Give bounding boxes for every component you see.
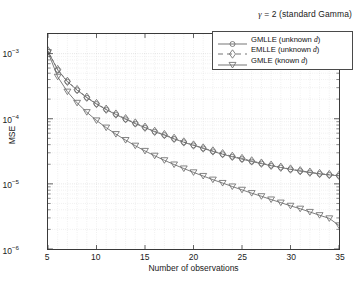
legend-symbol-circle [216, 35, 249, 45]
legend[interactable]: GMLLE (unknown d)EMLLE (unknown d)GMLE (… [212, 31, 353, 70]
x-tick-label: 5 [45, 252, 50, 262]
legend-item-emlle[interactable]: EMLLE (unknown d) [216, 45, 349, 55]
legend-label-suffix: ) [317, 45, 320, 54]
y-tick-base: 10 [2, 49, 11, 59]
legend-label-text: GMLE (known [251, 56, 301, 65]
y-tick-base: 10 [2, 246, 11, 256]
y-tick-exponent: −3 [12, 47, 19, 54]
figure-canvas: γ = 2 (standard Gamma) MSE Number of obs… [0, 0, 364, 292]
legend-label: GMLE (known d) [249, 56, 308, 66]
x-tick-label: 10 [91, 252, 100, 262]
legend-label-text: GMLLE (unknown [251, 35, 314, 44]
legend-label-text: EMLLE (unknown [251, 45, 313, 54]
x-tick-label: 30 [286, 252, 295, 262]
y-tick-exponent: −5 [12, 178, 19, 185]
chart-title: γ = 2 (standard Gamma) [258, 9, 352, 19]
legend-label: EMLLE (unknown d) [249, 45, 319, 55]
legend-symbol-diamond [216, 45, 249, 55]
y-tick-label: 10−3 [2, 47, 19, 59]
legend-item-gmlle[interactable]: GMLLE (unknown d) [216, 35, 349, 45]
y-tick-exponent: −4 [12, 113, 19, 120]
y-tick-label: 10−4 [2, 113, 19, 125]
y-tick-label: 10−6 [2, 244, 19, 256]
y-tick-exponent: −6 [12, 244, 19, 251]
x-tick-label: 15 [140, 252, 149, 262]
legend-label: GMLLE (unknown d) [249, 35, 320, 45]
y-tick-base: 10 [2, 114, 11, 124]
chart-title-text: = 2 (standard Gamma) [262, 9, 352, 19]
legend-symbol-svg [216, 60, 249, 70]
x-tick-label: 25 [238, 252, 247, 262]
legend-symbol-triangle-down [216, 56, 249, 66]
series-line [48, 51, 339, 175]
x-tick-label: 35 [335, 252, 344, 262]
legend-label-suffix: ) [318, 35, 321, 44]
y-tick-label: 10−5 [2, 178, 19, 190]
y-tick-base: 10 [2, 180, 11, 190]
legend-item-gmle[interactable]: GMLE (known d) [216, 56, 349, 66]
x-axis-label: Number of observations [47, 263, 340, 273]
x-tick-label: 20 [189, 252, 198, 262]
legend-label-suffix: ) [305, 56, 308, 65]
